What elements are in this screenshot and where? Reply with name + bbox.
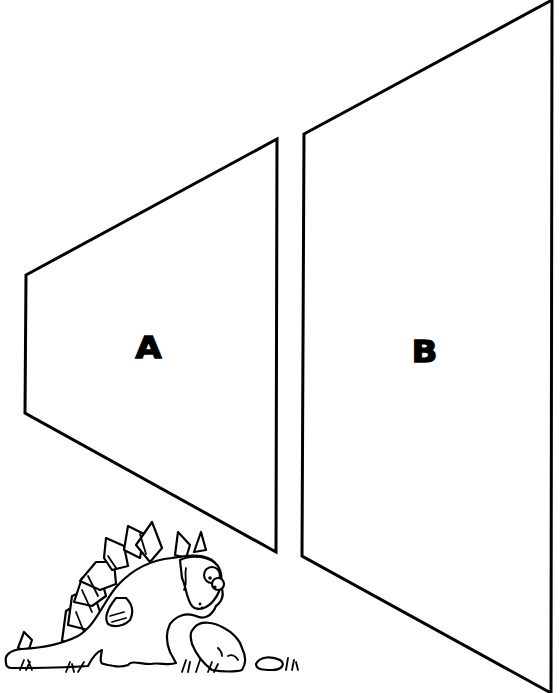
stegosaurus-icon xyxy=(6,522,298,672)
label-a: A xyxy=(136,333,162,363)
illusion-figure: A B xyxy=(0,0,560,693)
label-b: B xyxy=(412,337,438,367)
figure-canvas xyxy=(0,0,560,693)
